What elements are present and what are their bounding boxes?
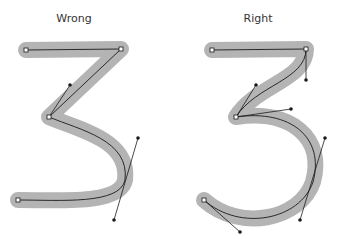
wrong-handle-point[interactable] [112, 218, 116, 222]
right-anchor-point[interactable] [234, 115, 238, 119]
wrong-anchor-point[interactable] [119, 47, 123, 51]
right-stroke-band [204, 49, 315, 218]
wrong-anchor-point[interactable] [16, 198, 20, 202]
right-anchor-point[interactable] [210, 48, 214, 52]
right-anchor-point[interactable] [202, 198, 206, 202]
right-figure [202, 47, 327, 234]
wrong-figure [16, 47, 140, 222]
wrong-stroke-band [18, 49, 125, 200]
wrong-anchor-point[interactable] [24, 48, 28, 52]
right-handle-point[interactable] [304, 78, 308, 82]
right-handle-point[interactable] [238, 230, 242, 234]
wrong-anchor-point[interactable] [47, 115, 51, 119]
right-handle-point[interactable] [254, 83, 258, 87]
wrong-handle-point[interactable] [68, 83, 72, 87]
right-handle-point[interactable] [298, 218, 302, 222]
right-anchor-point[interactable] [304, 47, 308, 51]
bezier-diagram [0, 0, 338, 243]
wrong-handle-point[interactable] [136, 136, 140, 140]
right-handle-point[interactable] [289, 107, 293, 111]
right-handle-point[interactable] [323, 136, 327, 140]
